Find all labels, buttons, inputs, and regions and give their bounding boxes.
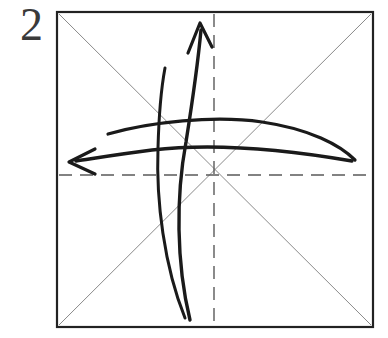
origami-diagram-canvas	[0, 0, 388, 338]
origami-step-figure: 2	[0, 0, 388, 338]
